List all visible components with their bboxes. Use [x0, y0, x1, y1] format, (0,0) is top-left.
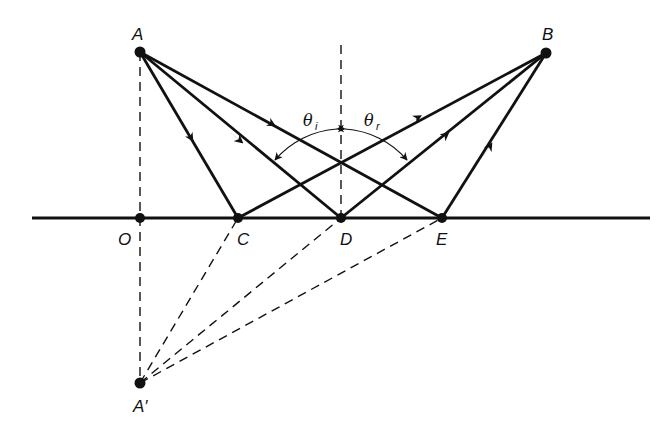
label-o: O [118, 230, 131, 249]
label-a: A [131, 25, 143, 44]
point-e [437, 213, 447, 223]
label-a-prime: A′ [132, 397, 148, 416]
ray-e-b [442, 53, 546, 218]
label-c: C [237, 230, 250, 249]
label-theta-i: θ [303, 111, 313, 130]
point-d [336, 213, 346, 223]
arrow-icon [185, 128, 191, 138]
ray-a-c [140, 52, 238, 218]
ray-c-b [238, 53, 546, 218]
point-a [135, 47, 146, 58]
reflection-diagram: A B O C D E A′ θ i θ r [0, 0, 665, 430]
label-b: B [542, 25, 553, 44]
point-a-prime [135, 378, 146, 389]
point-o [135, 213, 145, 223]
label-theta-r-subscript: r [376, 120, 381, 132]
ray-a-e [140, 52, 442, 218]
label-theta-i-subscript: i [315, 120, 318, 132]
virtual-ray-a-prime-e [140, 218, 442, 383]
point-b [541, 48, 552, 59]
label-theta-r: θ [364, 111, 374, 130]
label-d: D [340, 230, 352, 249]
virtual-ray-a-prime-c [140, 218, 238, 383]
label-e: E [436, 230, 448, 249]
point-c [233, 213, 243, 223]
